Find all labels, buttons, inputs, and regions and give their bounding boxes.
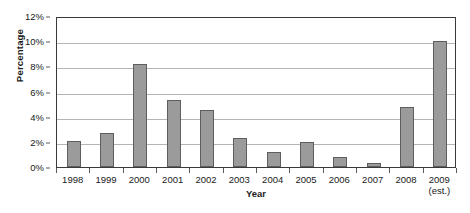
bar[interactable]	[100, 133, 114, 167]
bar[interactable]	[133, 64, 147, 167]
y-axis-tick-labels: 0%2%4%6%8%10%12%	[12, 17, 50, 168]
bar-chart: Percentage 0%2%4%6%8%10%12% 199819992000…	[0, 0, 470, 213]
bar-slot	[390, 18, 423, 167]
bar[interactable]	[333, 157, 347, 167]
x-axis-tick-label: 1999	[89, 174, 122, 185]
bar[interactable]	[267, 152, 281, 167]
x-axis-tick-mark	[56, 168, 57, 173]
bar[interactable]	[167, 100, 181, 167]
x-axis-title: Year	[56, 188, 456, 199]
bar[interactable]	[367, 163, 381, 167]
x-axis-tick-mark	[123, 168, 124, 173]
bar-slot	[324, 18, 357, 167]
bar-slot	[357, 18, 390, 167]
bar[interactable]	[400, 107, 414, 167]
x-axis-tick-mark	[289, 168, 290, 173]
y-axis-tick-label: 8%	[30, 63, 44, 73]
bar-slot	[290, 18, 323, 167]
x-axis-tick-mark	[189, 168, 190, 173]
bar-slot	[257, 18, 290, 167]
x-axis-tick-mark	[89, 168, 90, 173]
x-axis-tick-label: 2002	[189, 174, 222, 185]
y-axis-tick-label: 12%	[25, 12, 44, 22]
y-axis-tick-mark	[46, 17, 50, 18]
bar-slot	[57, 18, 90, 167]
y-axis-tick-mark	[46, 142, 50, 143]
y-axis-tick-mark	[46, 117, 50, 118]
x-axis-tick-label: 2007	[356, 174, 389, 185]
bar-slot	[157, 18, 190, 167]
x-axis-tick-mark	[156, 168, 157, 173]
y-axis-tick-label: 4%	[30, 113, 44, 123]
bar[interactable]	[67, 141, 81, 167]
x-axis-tick-marks	[56, 168, 456, 173]
y-axis-tick-label: 0%	[30, 163, 44, 173]
bar[interactable]	[200, 110, 214, 167]
x-axis-tick-mark	[389, 168, 390, 173]
bar[interactable]	[233, 138, 247, 167]
x-axis-tick-mark	[223, 168, 224, 173]
y-axis-tick-label: 6%	[30, 88, 44, 98]
bar[interactable]	[300, 142, 314, 167]
x-axis-tick-label: 2006	[323, 174, 356, 185]
y-axis-tick-mark	[46, 92, 50, 93]
x-axis-tick-mark	[356, 168, 357, 173]
y-axis-tick-mark	[46, 42, 50, 43]
x-axis-tick-label: 2000	[123, 174, 156, 185]
y-axis-tick-label: 10%	[25, 37, 44, 47]
x-axis-tick-label: 2008	[389, 174, 422, 185]
x-axis-tick-label: 2005	[289, 174, 322, 185]
x-axis-tick-label: 2003	[223, 174, 256, 185]
x-axis-tick-mark	[423, 168, 424, 173]
bar-slot	[124, 18, 157, 167]
bars-layer	[57, 18, 455, 167]
x-axis-tick-label: 2001	[156, 174, 189, 185]
plot-area	[56, 17, 456, 168]
y-axis-tick-mark	[46, 168, 50, 169]
bar[interactable]	[433, 41, 447, 167]
x-axis-tick-label: 2004	[256, 174, 289, 185]
bar-slot	[190, 18, 223, 167]
bar-slot	[424, 18, 457, 167]
x-axis-tick-label: 1998	[56, 174, 89, 185]
bar-slot	[224, 18, 257, 167]
y-axis-tick-label: 2%	[30, 138, 44, 148]
y-axis-tick-mark	[46, 67, 50, 68]
x-axis-tick-mark	[256, 168, 257, 173]
bar-slot	[90, 18, 123, 167]
x-axis-tick-mark	[456, 168, 457, 173]
x-axis-tick-mark	[323, 168, 324, 173]
